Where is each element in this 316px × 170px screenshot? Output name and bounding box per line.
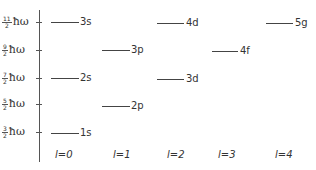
- x-label-l0: l=0: [55, 150, 73, 160]
- level-label-3d: 3d: [186, 74, 199, 84]
- x-label-l4: l=4: [275, 150, 293, 160]
- level-line-5g: [266, 23, 293, 24]
- level-line-3d: [157, 79, 184, 80]
- level-label-3s: 3s: [80, 17, 92, 27]
- y-label-9-2: 92 ħω: [2, 42, 36, 58]
- level-line-3s: [51, 22, 79, 23]
- level-line-2p: [102, 106, 130, 107]
- level-line-3p: [102, 50, 130, 51]
- level-label-2p: 2p: [131, 101, 144, 111]
- x-label-l2: l=2: [167, 150, 185, 160]
- level-label-4d: 4d: [186, 18, 199, 28]
- tick-9-2: [36, 50, 42, 51]
- tick-7-2: [36, 78, 42, 79]
- tick-5-2: [36, 104, 42, 105]
- energy-axis: [39, 10, 40, 162]
- level-line-4d: [157, 23, 184, 24]
- y-label-7-2: 72 ħω: [2, 70, 36, 86]
- level-line-1s: [51, 133, 79, 134]
- level-line-4f: [212, 51, 238, 52]
- tick-3-2: [36, 132, 42, 133]
- level-label-1s: 1s: [80, 128, 92, 138]
- tick-11-2: [36, 22, 42, 23]
- level-label-2s: 2s: [80, 73, 92, 83]
- level-label-3p: 3p: [131, 45, 144, 55]
- level-label-4f: 4f: [240, 46, 250, 56]
- x-label-l3: l=3: [218, 150, 236, 160]
- y-label-3-2: 32 ħω: [2, 124, 36, 140]
- level-label-5g: 5g: [295, 18, 308, 28]
- level-line-2s: [51, 78, 79, 79]
- x-label-l1: l=1: [113, 150, 131, 160]
- y-label-5-2: 52 ħω: [2, 96, 36, 112]
- y-label-11-2: 112 ħω: [2, 14, 36, 30]
